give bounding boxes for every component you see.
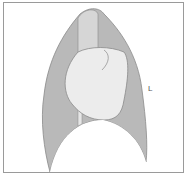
chest-diagram [0, 0, 187, 182]
side-marker-label: L [148, 84, 152, 93]
